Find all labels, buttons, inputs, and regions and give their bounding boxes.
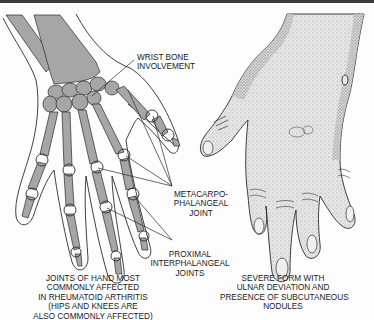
caption-line: NODULES <box>220 302 346 311</box>
label-wrist-bone: WRIST BONE INVOLVEMENT <box>137 53 195 72</box>
label-line: JOINT <box>172 209 230 218</box>
caption-line: PRESENCE OF SUBCUTANEOUS <box>220 293 346 302</box>
caption-line: COMMONLY AFFECTED <box>30 283 156 292</box>
caption-line: IN RHEUMATOID ARTHRITIS <box>30 293 156 302</box>
figure: WRIST BONE INVOLVEMENT METACARPO- PHALAN… <box>0 0 374 320</box>
label-line: PHALANGEAL <box>172 199 230 208</box>
caption-right: SEVERE FORM WITH ULNAR DEVIATION AND PRE… <box>220 274 346 312</box>
label-line: INVOLVEMENT <box>137 62 195 71</box>
label-line: PROXIMAL <box>150 250 230 259</box>
deformed-hand <box>200 14 364 282</box>
caption-line: ALSO COMMONLY AFFECTED) <box>30 312 156 320</box>
caption-line: (HIPS AND KNEES ARE <box>30 302 156 311</box>
caption-left: JOINTS OF HAND MOST COMMONLY AFFECTED IN… <box>30 274 156 320</box>
label-line: INTERPHALANGEAL <box>150 259 230 268</box>
label-line: METACARPO- <box>172 190 230 199</box>
label-line: JOINTS <box>150 269 230 278</box>
caption-line: JOINTS OF HAND MOST <box>30 274 156 283</box>
caption-line: SEVERE FORM WITH <box>220 274 346 283</box>
label-proximal-interphalangeal-joints: PROXIMAL INTERPHALANGEAL JOINTS <box>150 250 230 278</box>
caption-line: ULNAR DEVIATION AND <box>220 283 346 292</box>
label-metacarpophalangeal-joint: METACARPO- PHALANGEAL JOINT <box>172 190 230 218</box>
label-line: WRIST BONE <box>137 53 195 62</box>
